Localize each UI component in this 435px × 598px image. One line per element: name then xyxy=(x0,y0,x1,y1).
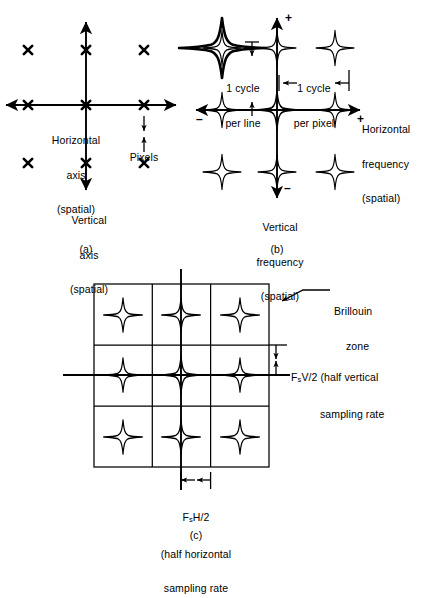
panel-c-caption: (c) xyxy=(190,530,203,542)
panel-c-hmeasure-line3: sampling rate xyxy=(161,583,231,595)
panel-b-horizontal-axis-label: Horizontal frequency (spatial) xyxy=(362,101,410,228)
panel-b-plus-top: + xyxy=(285,13,292,23)
panel-b-vaxis-line3: (spatial) xyxy=(256,291,303,303)
panel-c-vmeasure-rest: V/2 (half vertical xyxy=(301,371,378,383)
panel-a-haxis-line2: axis xyxy=(52,170,100,182)
panel-b-haxis-line3: (spatial) xyxy=(362,193,410,205)
panel-b-haxis-line2: frequency xyxy=(362,159,410,171)
panel-a-pixels-text: Pixels xyxy=(130,152,159,164)
panel-b-axes xyxy=(196,18,360,198)
panel-c-vmeasure-line1: FsV/2 (half vertical xyxy=(291,372,384,386)
panel-a-pixels-label: Pixels xyxy=(130,129,159,187)
panel-c-hmeasure-rest: H/2 xyxy=(193,511,210,523)
panel-c-vertical-measure-label: FsV/2 (half vertical sampling rate xyxy=(291,349,384,443)
panel-b-vaxis-line2: frequency xyxy=(256,257,303,269)
panel-a-caption: (a) xyxy=(79,244,92,256)
panel-b-cpl-line2: per line xyxy=(225,118,260,130)
panel-c-horizontal-measure-label: FsH/2 (half horizontal sampling rate xyxy=(161,489,231,598)
panel-b-plus-right: + xyxy=(357,114,364,124)
panel-c-brillouin-line1: Brillouin xyxy=(334,306,372,318)
panel-b-vaxis-line1: Vertical xyxy=(256,222,303,234)
panel-b-haxis-line1: Horizontal xyxy=(362,124,410,136)
panel-c-horizontal-dimension xyxy=(181,472,211,489)
panel-c-hmeasure-line2: (half horizontal xyxy=(161,549,231,561)
panel-b-vertical-axis-label: Vertical frequency (spatial) xyxy=(256,199,303,326)
panel-b-cpp-line1: 1 cycle xyxy=(294,83,335,95)
panel-a-haxis-line1: Horizontal xyxy=(52,135,100,147)
panel-a-vaxis-line1: Vertical xyxy=(70,215,108,227)
panel-a-vaxis-line3: (spatial) xyxy=(70,284,108,296)
panel-c-hmeasure-line1: FsH/2 xyxy=(161,512,231,526)
panel-b-cycle-per-pixel-label: 1 cycle per pixel xyxy=(294,60,335,152)
panel-b-minus-bottom: – xyxy=(284,183,291,193)
panel-c-vmeasure-line2: sampling rate xyxy=(320,409,384,421)
panel-b-cycle-per-line-label: 1 cycle per line xyxy=(225,60,260,152)
panel-b-minus-left: – xyxy=(196,114,203,124)
panel-b-cpp-line2: per pixel xyxy=(294,118,335,130)
panel-c-vertical-dimension xyxy=(269,345,287,375)
panel-b-cpl-line1: 1 cycle xyxy=(225,83,260,95)
panel-b-caption: (b) xyxy=(270,244,283,256)
